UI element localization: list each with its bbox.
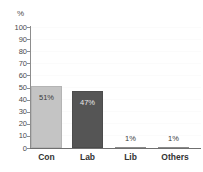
y-tick-label-80: 80 [19, 48, 27, 56]
y-tick-mark-90 [27, 39, 30, 40]
bar-value-con: 51% [31, 94, 62, 102]
y-tick-mark-80 [27, 51, 30, 52]
y-tick-label-60: 60 [19, 72, 27, 80]
y-tick-label-70: 70 [19, 60, 27, 68]
gridline-90 [31, 39, 201, 40]
y-tick-label-30: 30 [19, 108, 27, 116]
y-tick-mark-50 [27, 88, 30, 89]
x-axis-label-others: Others [153, 152, 197, 162]
y-tick-label-20: 20 [19, 120, 27, 128]
y-tick-label-0: 0 [23, 145, 27, 153]
x-axis-line [30, 148, 201, 149]
y-tick-mark-100 [27, 27, 30, 28]
gridline-70 [31, 63, 201, 64]
y-tick-mark-40 [27, 100, 30, 101]
y-tick-mark-70 [27, 63, 30, 64]
gridline-60 [31, 75, 201, 76]
y-tick-mark-0 [27, 148, 30, 149]
bar-value-lib: 1% [115, 135, 146, 143]
y-tick-mark-30 [27, 112, 30, 113]
y-tick-mark-60 [27, 75, 30, 76]
y-tick-mark-20 [27, 124, 30, 125]
x-axis-label-con: Con [31, 152, 62, 162]
bar-value-lab: 47% [72, 99, 103, 107]
y-tick-label-100: 100 [14, 24, 27, 32]
y-axis-line [30, 26, 31, 149]
y-tick-label-90: 90 [19, 36, 27, 44]
x-axis-label-lab: Lab [72, 152, 103, 162]
y-tick-mark-10 [27, 136, 30, 137]
y-tick-label-50: 50 [19, 84, 27, 92]
bar-value-others: 1% [158, 135, 189, 143]
gridline-80 [31, 51, 201, 52]
plot-area: 51% 47% 1% 1% [31, 27, 201, 148]
gridline-100 [31, 27, 201, 28]
x-axis-label-lib: Lib [115, 152, 146, 162]
bar-chart: % 51% 47% 1% 1% 100 90 80 70 60 [0, 0, 203, 172]
y-tick-label-10: 10 [19, 132, 27, 140]
y-axis-unit-label: % [17, 10, 24, 18]
y-tick-label-40: 40 [19, 96, 27, 104]
